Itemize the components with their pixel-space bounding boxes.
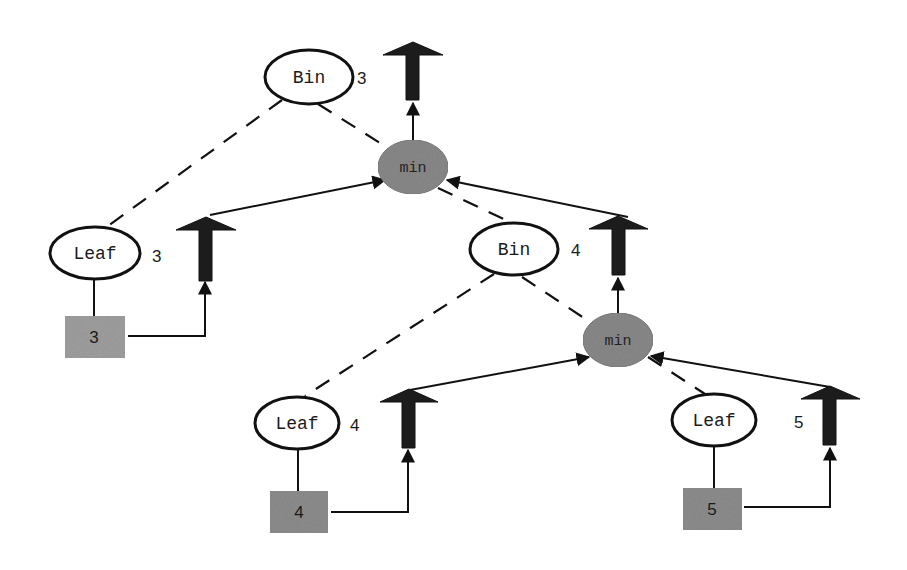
leaf-right-label: Leaf: [692, 411, 735, 431]
flow-box-right-to-arrow: [744, 448, 830, 507]
edge-bin-top-to-min-top: [318, 104, 388, 148]
up-arrow-icon: [801, 386, 860, 445]
flow-edges: [94, 103, 830, 512]
leaf-left-value: 3: [152, 247, 161, 266]
up-arrow-icon: [176, 217, 236, 281]
bin-right-label: Bin: [498, 240, 530, 260]
box-mid-label: 4: [294, 503, 303, 522]
bin-top-value: 3: [357, 69, 366, 88]
value-box-left: 3: [65, 316, 125, 358]
min-node-top: min: [378, 140, 448, 194]
leaf-node-mid: Leaf: [255, 397, 339, 449]
edge-min-right-to-leaf-right: [648, 357, 705, 394]
flow-arrow-r-to-min-right: [651, 356, 830, 387]
value-box-mid: 4: [270, 491, 328, 533]
edge-bin-right-to-min-right: [522, 277, 590, 322]
min-right-label: min: [604, 333, 631, 350]
up-arrow-icon: [589, 216, 648, 275]
tree-min-diagram: Bin 3 min Leaf 3 3 Bin 4 min Leaf 4 4 Le: [0, 0, 907, 570]
up-arrow-icon: [380, 389, 438, 448]
flow-box-left-to-arrow: [128, 282, 205, 336]
leaf-mid-value: 4: [350, 416, 359, 435]
leaf-node-right: Leaf: [672, 394, 756, 446]
box-left-label: 3: [89, 328, 98, 347]
flow-box-mid-to-arrow: [331, 450, 408, 512]
leaf-left-label: Leaf: [73, 244, 116, 264]
leaf-right-value: 5: [794, 413, 803, 432]
leaf-node-left: Leaf: [50, 227, 140, 279]
flow-arrow-left-to-min-top: [210, 180, 385, 215]
value-box-right: 5: [683, 488, 742, 530]
edge-bin-top-to-leaf-left: [108, 100, 282, 226]
bin-top-label: Bin: [293, 68, 325, 88]
flow-arrow-right-to-min-top: [447, 180, 628, 217]
leaf-mid-label: Leaf: [275, 414, 318, 434]
box-right-label: 5: [707, 500, 716, 519]
min-top-label: min: [399, 160, 426, 177]
up-arrow-icon: [383, 42, 443, 100]
min-node-right: min: [583, 313, 653, 367]
bin-right-value: 4: [571, 241, 580, 260]
bin-node-right: Bin: [470, 223, 558, 275]
edge-min-top-to-bin-right: [438, 188, 510, 222]
edge-bin-right-to-leaf-mid: [305, 274, 494, 396]
flow-arrow-mid-to-min-right: [410, 357, 589, 390]
bin-node-top: Bin: [265, 50, 353, 104]
